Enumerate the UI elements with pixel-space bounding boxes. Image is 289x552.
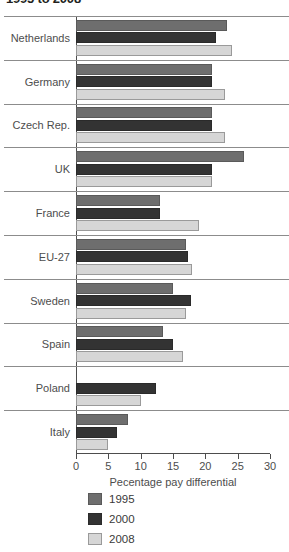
bar-2000	[76, 120, 212, 131]
bar-2008	[76, 308, 186, 319]
bar-group: Spain	[76, 323, 270, 367]
bar-2008	[76, 176, 212, 187]
category-label: Poland	[36, 382, 70, 394]
bar-2008	[76, 351, 183, 362]
bar-2000	[76, 339, 173, 350]
bar-1995	[76, 239, 186, 250]
bar-2008	[76, 45, 232, 56]
category-label: Sweden	[30, 295, 70, 307]
legend-swatch-2000	[88, 513, 102, 525]
legend-item-2008: 2008	[88, 529, 135, 549]
x-axis-label: Pecentage pay differential	[76, 476, 270, 488]
bar-2000	[76, 32, 216, 43]
bar-2000	[76, 76, 212, 87]
x-tick-label: 5	[105, 460, 111, 472]
bar-1995	[76, 195, 160, 206]
category-label: EU-27	[39, 251, 70, 263]
bar-1995	[76, 151, 244, 162]
bar-1995	[76, 326, 163, 337]
x-tick	[238, 454, 239, 459]
x-tick	[173, 454, 174, 459]
bar-1995	[76, 414, 128, 425]
category-label: Czech Rep.	[13, 119, 70, 131]
bar-2008	[76, 264, 192, 275]
bar-group: Sweden	[76, 279, 270, 323]
legend-swatch-2008	[88, 533, 102, 545]
bar-1995	[76, 64, 212, 75]
bar-2008	[76, 395, 141, 406]
bar-2000	[76, 251, 188, 262]
bar-2008	[76, 220, 199, 231]
x-axis: 051015202530 Pecentage pay differential	[76, 454, 270, 494]
bar-2000	[76, 427, 117, 438]
category-label: UK	[55, 163, 70, 175]
bar-group: Italy	[76, 410, 270, 454]
x-tick	[76, 454, 77, 459]
bar-1995	[76, 283, 173, 294]
bar-group: UK	[76, 147, 270, 191]
bar-1995	[76, 20, 227, 31]
bar-group: EU-27	[76, 235, 270, 279]
x-tick-label: 0	[73, 460, 79, 472]
category-label: Spain	[42, 338, 70, 350]
x-tick-label: 30	[264, 460, 276, 472]
category-label: Germany	[25, 76, 70, 88]
bar-2000	[76, 208, 160, 219]
bar-2008	[76, 439, 108, 450]
bar-group: Poland	[76, 366, 270, 410]
x-tick-label: 20	[199, 460, 211, 472]
bar-2008	[76, 89, 225, 100]
legend-item-2000: 2000	[88, 509, 135, 529]
x-tick-label: 10	[135, 460, 147, 472]
bar-group: France	[76, 191, 270, 235]
bar-2000	[76, 295, 191, 306]
bar-chart: 1995 to 2008 NetherlandsGermanyCzech Rep…	[0, 0, 289, 552]
x-tick-label: 15	[167, 460, 179, 472]
legend-label-1995: 1995	[109, 493, 135, 505]
legend-label-2008: 2008	[109, 533, 135, 545]
category-label: Netherlands	[11, 32, 70, 44]
bar-group: Czech Rep.	[76, 104, 270, 148]
x-tick	[270, 454, 271, 459]
chart-legend: 1995 2000 2008	[88, 489, 135, 549]
bar-2000	[76, 164, 212, 175]
bar-2008	[76, 132, 225, 143]
bar-group: Germany	[76, 60, 270, 104]
chart-title: 1995 to 2008	[6, 0, 81, 6]
bar-group: Netherlands	[76, 16, 270, 60]
bar-2000	[76, 383, 156, 394]
legend-label-2000: 2000	[109, 513, 135, 525]
x-tick	[205, 454, 206, 459]
legend-swatch-1995	[88, 493, 102, 505]
legend-item-1995: 1995	[88, 489, 135, 509]
x-tick-label: 25	[232, 460, 244, 472]
category-label: France	[36, 207, 70, 219]
x-tick	[141, 454, 142, 459]
bar-1995	[76, 107, 212, 118]
category-label: Italy	[50, 426, 70, 438]
plot-area: NetherlandsGermanyCzech Rep.UKFranceEU-2…	[76, 16, 270, 454]
x-tick	[108, 454, 109, 459]
